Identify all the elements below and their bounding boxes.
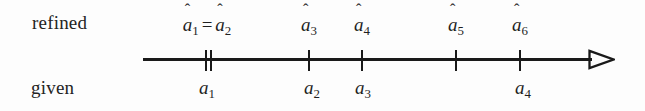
given-label-a-2: a2: [304, 77, 320, 102]
a-hat-6-symbol: ˆa: [512, 14, 522, 36]
hat-accent-icon: ˆ: [217, 2, 222, 18]
refined-label-a-hat-3: ˆa3: [301, 14, 317, 39]
refined-label-a-hat-1-eq-a-hat-2: ˆa1=ˆa2: [183, 14, 232, 39]
a-1-subscript: 1: [209, 86, 215, 101]
given-label-a-1: a1: [199, 77, 215, 102]
tick-a-hat-4: [361, 50, 363, 71]
a-hat-5-symbol: ˆa: [448, 14, 458, 36]
a-3-base: a: [355, 77, 365, 98]
a-hat-1-symbol: ˆa: [183, 14, 193, 36]
tick-a-hat-6: [519, 50, 521, 71]
a-hat-3-subscript: 3: [311, 23, 317, 38]
number-line-figure: refined given ˆa1=ˆa2 ˆa3 ˆa4 ˆa5 ˆa6 a1…: [0, 0, 645, 111]
given-label-a-3: a3: [355, 77, 371, 102]
refined-label-a-hat-5: ˆa5: [448, 14, 464, 39]
refined-label-a-hat-6: ˆa6: [512, 14, 528, 39]
hat-accent-icon: ˆ: [303, 2, 308, 18]
hat-accent-icon: ˆ: [514, 2, 519, 18]
a-3-subscript: 3: [365, 86, 371, 101]
tick-a-hat-3: [308, 50, 310, 71]
a-hat-6-subscript: 6: [522, 23, 528, 38]
a-hat-2-subscript: 2: [225, 23, 231, 38]
hat-accent-icon: ˆ: [450, 2, 455, 18]
row-label-refined: refined: [32, 12, 87, 34]
tick-a-hat-5: [455, 50, 457, 71]
a-hat-3-symbol: ˆa: [301, 14, 311, 36]
a-4-subscript: 4: [525, 86, 531, 101]
tick-a-hat-1: [205, 50, 207, 71]
a-hat-1-subscript: 1: [192, 23, 198, 38]
a-hat-2-symbol: ˆa: [215, 14, 225, 36]
a-2-base: a: [304, 77, 314, 98]
tick-a-hat-2: [210, 50, 212, 71]
a-4-base: a: [515, 77, 525, 98]
a-hat-4-symbol: ˆa: [354, 14, 364, 36]
axis-arrowhead-icon: [588, 49, 615, 70]
a-2-subscript: 2: [314, 86, 320, 101]
hat-accent-icon: ˆ: [356, 2, 361, 18]
a-hat-5-subscript: 5: [458, 23, 464, 38]
equals-sign: =: [199, 14, 216, 35]
refined-label-a-hat-4: ˆa4: [354, 14, 370, 39]
given-label-a-4: a4: [515, 77, 531, 102]
a-hat-4-subscript: 4: [364, 23, 370, 38]
a-1-base: a: [199, 77, 209, 98]
hat-accent-icon: ˆ: [185, 2, 190, 18]
row-label-given: given: [31, 77, 74, 99]
